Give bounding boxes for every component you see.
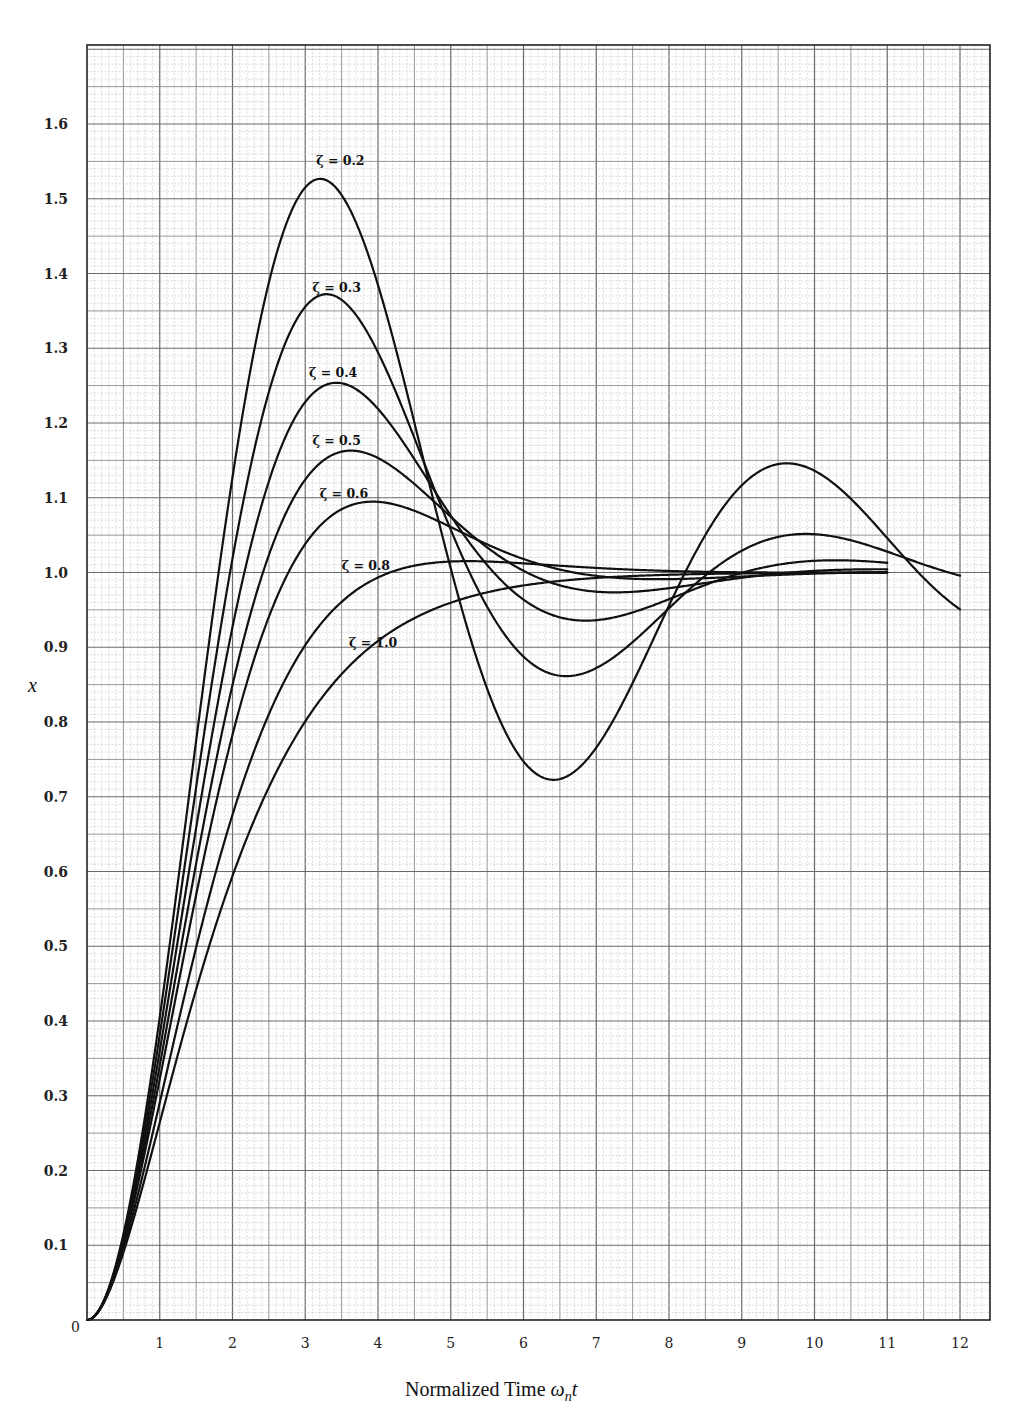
x-tick-label: 8: [665, 1335, 674, 1351]
y-axis-label: x: [27, 674, 37, 696]
y-tick-label: 0.9: [44, 639, 68, 655]
y-tick-label: 1.3: [44, 340, 68, 356]
y-tick-label: 0.5: [44, 938, 68, 954]
y-tick-label: 0.8: [44, 714, 68, 730]
x-axis-title-omega: ω: [551, 1378, 565, 1400]
curve-label: ζ = 0.8: [342, 558, 391, 573]
curve-label: ζ = 0.3: [313, 280, 361, 295]
y-tick-label: 1.2: [44, 415, 68, 431]
curve-label: ζ = 0.4: [309, 365, 358, 380]
x-tick-label: 3: [301, 1335, 310, 1351]
x-tick-label: 7: [592, 1335, 601, 1351]
y-tick-label: 0.4: [44, 1013, 69, 1029]
y-tick-label: 1.6: [44, 116, 68, 132]
x-axis-title: Normalized Time ωnt: [405, 1378, 578, 1404]
x-tick-label: 5: [446, 1335, 455, 1351]
x-tick-label: 6: [519, 1335, 528, 1351]
y-tick-label: 0.2: [44, 1163, 68, 1179]
curve-label: ζ = 0.6: [320, 486, 369, 501]
y-tick-label: 0.7: [44, 789, 68, 805]
x-tick-label: 10: [806, 1335, 824, 1351]
y-axis-ticks: 0.10.20.30.40.50.60.70.80.91.01.11.21.31…: [44, 116, 69, 1253]
x-tick-label: 4: [374, 1335, 383, 1351]
x-tick-label: 11: [878, 1335, 896, 1351]
y-tick-label: 1.4: [44, 266, 69, 282]
curve-label: ζ = 0.5: [313, 433, 361, 448]
x-axis-title-text: Normalized Time: [405, 1378, 551, 1400]
x-axis-ticks: 123456789101112: [155, 1335, 969, 1351]
y-tick-label: 0.1: [44, 1237, 68, 1253]
curve-label: ζ = 1.0: [349, 635, 398, 650]
curve-label: ζ = 0.2: [316, 153, 364, 168]
x-tick-label: 1: [155, 1335, 164, 1351]
step-response-chart: 0.10.20.30.40.50.60.70.80.91.01.11.21.31…: [0, 0, 1031, 1422]
x-tick-label: 12: [951, 1335, 969, 1351]
y-tick-label: 0.6: [44, 864, 68, 880]
y-tick-label: 0.3: [44, 1088, 68, 1104]
y-tick-label: 1.0: [44, 565, 69, 581]
x-axis-title-sub: n: [565, 1389, 572, 1404]
x-tick-label: 9: [737, 1335, 746, 1351]
y-tick-label: 1.1: [44, 490, 68, 506]
y-tick-label: 1.5: [44, 191, 68, 207]
x-axis-title-t: t: [572, 1378, 578, 1400]
x-tick-label: 2: [228, 1335, 237, 1351]
origin-label: 0: [71, 1319, 80, 1335]
